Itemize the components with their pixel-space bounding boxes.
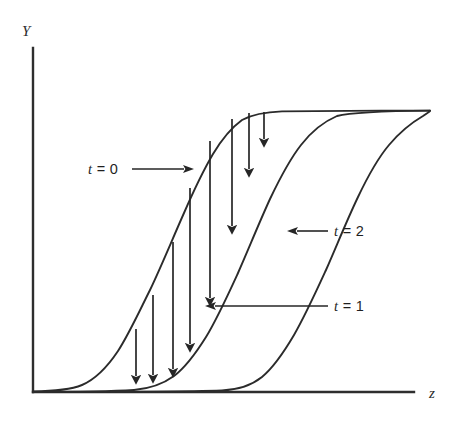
series-label-t1-rest: = 1 [338, 298, 364, 314]
y-axis-label: Y [22, 23, 32, 39]
label-arrows-group [132, 169, 328, 306]
series-labels-group: t = 0 t = 2 t = 1 [88, 161, 364, 314]
series-label-t2: t = 2 [334, 223, 364, 239]
series-label-t0: t = 0 [88, 161, 118, 177]
flow-arrows-group [136, 112, 264, 376]
series-label-t2-rest: = 2 [338, 223, 364, 239]
axes-group: Y z [22, 23, 435, 401]
series-label-t1: t = 1 [334, 298, 364, 314]
x-axis-label: z [428, 385, 435, 401]
plot-canvas: Y z t = 0 [0, 0, 476, 421]
figure-container: Y z t = 0 [0, 0, 476, 421]
series-label-t0-rest: = 0 [92, 161, 118, 177]
